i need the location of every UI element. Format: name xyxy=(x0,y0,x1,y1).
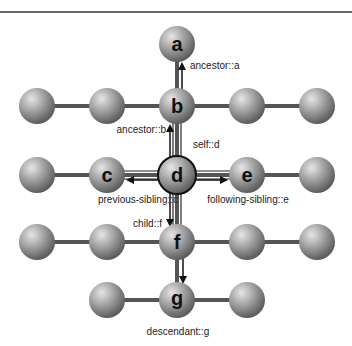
node-f-label: f xyxy=(174,231,181,253)
node-d-label: d xyxy=(171,164,183,186)
label-ancestor-a: ancestor::a xyxy=(190,60,240,71)
label-self-d: self::d xyxy=(193,139,220,150)
node-g-label: g xyxy=(171,287,183,309)
label-ancestor-b: ancestor::b xyxy=(117,124,167,135)
label-previous-sibling-c: previous-sibling::c xyxy=(98,194,178,205)
label-child-f: child::f xyxy=(133,218,162,229)
node-a-label: a xyxy=(171,33,183,55)
node-e-label: e xyxy=(241,164,252,186)
label-descendant-g: descendant::g xyxy=(147,326,210,337)
xpath-axes-diagram: a b c d e f g ancestor::a ancestor::b se… xyxy=(0,0,352,346)
node-b-label: b xyxy=(171,95,183,117)
label-following-sibling-e: following-sibling::e xyxy=(207,194,289,205)
node-c-label: c xyxy=(101,164,112,186)
